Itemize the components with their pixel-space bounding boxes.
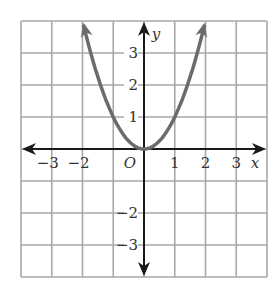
x-tick-label: −2 bbox=[67, 154, 89, 172]
graph: −3−2123321−2−3Oxy bbox=[0, 0, 279, 290]
tick-labels: −3−2123321−2−3Oxy bbox=[37, 23, 260, 254]
x-tick-label: 3 bbox=[231, 154, 241, 172]
x-axis-label: x bbox=[251, 154, 260, 172]
y-tick-label: −3 bbox=[116, 236, 138, 254]
y-tick-label: 2 bbox=[128, 76, 138, 94]
y-axis-label: y bbox=[151, 25, 161, 43]
y-tick-label: 3 bbox=[128, 44, 138, 62]
x-tick-label: −3 bbox=[37, 154, 59, 172]
origin-label: O bbox=[124, 154, 136, 172]
x-tick-label: 1 bbox=[170, 154, 180, 172]
x-tick-label: 2 bbox=[201, 154, 211, 172]
y-tick-label: −2 bbox=[116, 204, 138, 222]
y-tick-label: 1 bbox=[128, 108, 138, 126]
